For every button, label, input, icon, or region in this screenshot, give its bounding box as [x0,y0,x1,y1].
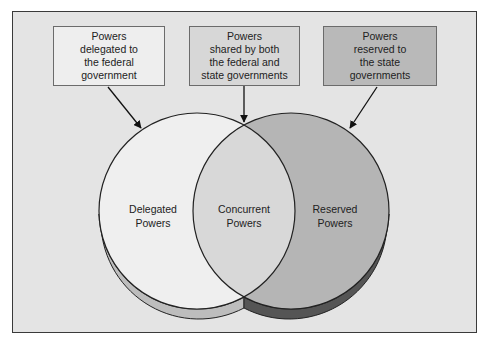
reserved-arrow [350,87,377,128]
delegated-arrow [108,87,141,128]
concurrent-powers-label: Concurrent Powers [199,202,289,230]
reserved-powers-label: Reserved Powers [290,202,380,230]
venn-diagram [0,0,491,345]
delegated-powers-label: Delegated Powers [108,202,198,230]
